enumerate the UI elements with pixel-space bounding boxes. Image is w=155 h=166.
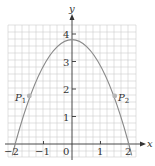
x-tick-neg2: −2 xyxy=(4,146,19,157)
x-tick-0: 0 xyxy=(63,146,69,157)
y-tick-1: 1 xyxy=(63,112,69,123)
x-axis-arrow-icon xyxy=(140,142,146,147)
y-tick-4: 4 xyxy=(63,29,69,40)
x-tick-1: 1 xyxy=(97,146,103,157)
point-p1-label: P1 xyxy=(14,92,26,105)
y-axis-arrow-icon xyxy=(70,14,75,20)
y-tick-2: 2 xyxy=(63,84,69,95)
point-p2 xyxy=(112,94,117,99)
point-p2-label: P2 xyxy=(117,92,129,105)
point-p1 xyxy=(27,94,32,99)
axes xyxy=(5,14,146,160)
x-tick-neg1: −1 xyxy=(35,146,50,157)
parabola-diagram: y x 4 3 2 1 −2 −1 0 1 2 P1 P2 xyxy=(0,0,155,166)
x-axis-label: x xyxy=(147,138,153,149)
y-axis-label: y xyxy=(68,3,75,14)
x-tick-2: 2 xyxy=(125,146,131,157)
y-tick-3: 3 xyxy=(63,57,69,68)
